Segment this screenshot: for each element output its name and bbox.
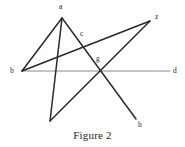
vertex-label-z: z	[155, 13, 158, 21]
vertex-label-c: c	[80, 30, 83, 38]
vertex-label-h: h	[138, 121, 142, 129]
vertex-label-a: a	[59, 3, 62, 11]
figure-caption: Figure 2	[0, 129, 185, 141]
segment-a-k	[50, 18, 62, 121]
vertex-label-g: g	[96, 55, 100, 63]
vertex-label-d: d	[173, 67, 177, 75]
segment-a-h	[62, 18, 136, 119]
vertex-label-b: b	[10, 67, 14, 75]
figure-container: a b c d g h z Figure 2	[0, 0, 185, 147]
geometry-diagram	[0, 0, 185, 147]
